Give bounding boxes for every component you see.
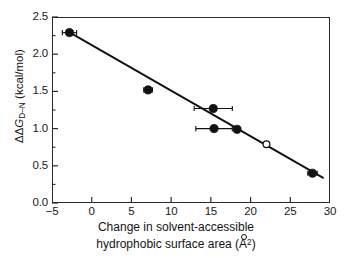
y-axis-title: ΔΔGD–N (kcal/mol) [13,1,29,191]
x-tick-label: 5 [114,205,148,217]
y-axis-title-subscript: D–N [18,102,27,119]
x-tick-label: 10 [154,205,188,217]
figure-panel: 0.00.51.01.52.02.5 ΔΔGD–N (kcal/mol) −50… [0,0,347,258]
angstrom-exponent: 2 [247,238,252,247]
plot-frame [52,17,330,203]
y-axis-title-symbol: G [13,119,25,128]
angstrom-symbol: A [239,237,247,251]
x-tick-label: 20 [234,205,268,217]
x-axis-title-line2: hydrophobic surface area (A2) [36,235,316,252]
x-axis-title: Change in solvent-accessible hydrophobic… [36,220,316,252]
y-axis-title-prefix: ΔΔ [13,128,25,143]
x-tick-label: −5 [35,205,69,217]
x-tick-label: 0 [75,205,109,217]
x-axis-tick-labels: −5051015202530 [52,205,330,219]
x-tick-label: 25 [273,205,307,217]
x-tick-label: 30 [313,205,347,217]
y-axis-title-units: (kcal/mol) [13,49,25,102]
x-tick-label: 15 [194,205,228,217]
x-axis-title-line1: Change in solvent-accessible [36,220,316,235]
